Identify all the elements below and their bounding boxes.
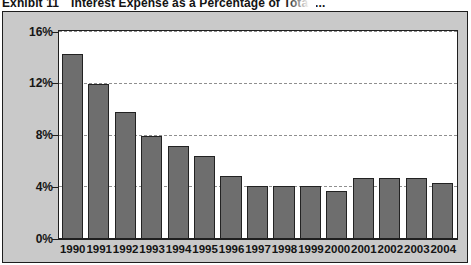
plot-area [58, 30, 458, 240]
bar-1994 [168, 146, 189, 239]
bar-1998 [273, 186, 294, 239]
title-fade-mask [286, 0, 316, 11]
bar-1992 [115, 112, 136, 239]
y-axis-label-16: 16% [7, 25, 53, 39]
bar-1999 [300, 186, 321, 239]
gridline-12 [59, 83, 457, 84]
exhibit-number: Exhibit 11 [2, 0, 59, 10]
bar-2002 [379, 178, 400, 239]
y-axis-label-4: 4% [7, 180, 53, 194]
exhibit-title: Exhibit 11Interest Expense as a Percenta… [2, 0, 325, 10]
y-axis-label-0: 0% [7, 232, 53, 246]
x-axis-label-2004: 2004 [428, 243, 458, 255]
gridline-16 [59, 31, 457, 32]
bar-1996 [220, 176, 241, 239]
bar-1993 [141, 136, 162, 240]
y-axis-label-8: 8% [7, 128, 53, 142]
exhibit-title-bar: Exhibit 11Interest Expense as a Percenta… [0, 0, 471, 11]
bar-1990 [62, 54, 83, 239]
bar-1997 [247, 186, 268, 239]
bar-2003 [406, 178, 427, 239]
chart-screenshot: Exhibit 11Interest Expense as a Percenta… [0, 0, 471, 265]
y-axis-label-12: 12% [7, 76, 53, 90]
axis-baseline [59, 238, 457, 239]
figure-frame: 0%4%8%12%16% 199019911992199319941995199… [2, 11, 468, 263]
bar-1991 [88, 84, 109, 239]
bar-1995 [194, 156, 215, 239]
bar-2004 [432, 183, 453, 239]
bar-2001 [353, 178, 374, 239]
bar-2000 [326, 191, 347, 239]
